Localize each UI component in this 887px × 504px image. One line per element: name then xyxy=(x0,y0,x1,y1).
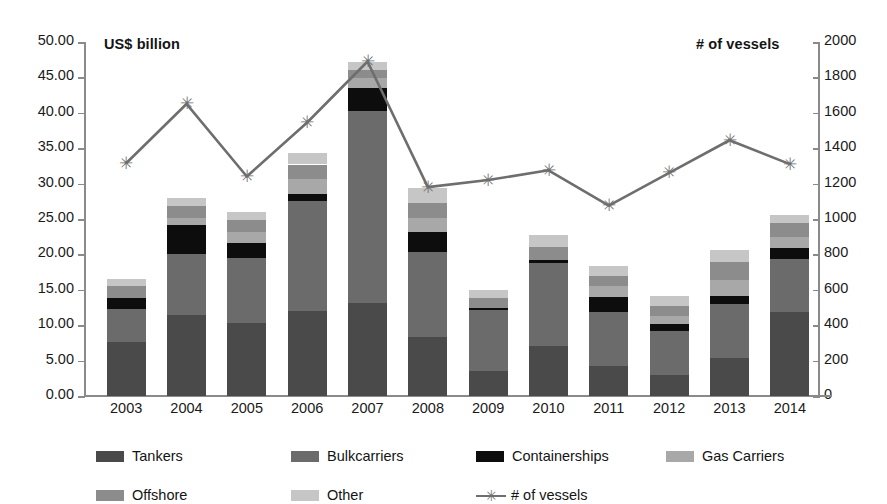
legend-swatch xyxy=(476,451,504,462)
legend-label: Bulkcarriers xyxy=(327,448,404,464)
left-tick-label: 30.00 xyxy=(12,174,74,190)
left-tick-label: 45.00 xyxy=(12,67,74,83)
vessels-marker: ✳ xyxy=(421,178,435,197)
right-tick-label: 2000 xyxy=(824,32,884,48)
vessels-line-series: ✳✳✳✳✳✳✳✳✳✳✳✳ xyxy=(96,42,820,396)
legend-item-tankers[interactable]: Tankers xyxy=(96,448,183,464)
left-tick-label: 15.00 xyxy=(12,280,74,296)
left-tick-label: 40.00 xyxy=(12,103,74,119)
legend-item-gas-carriers[interactable]: Gas Carriers xyxy=(666,448,784,464)
vessels-marker: ✳ xyxy=(662,163,676,182)
legend-label: Other xyxy=(327,487,363,503)
right-tick-label: 200 xyxy=(824,351,884,367)
x-label-2014: 2014 xyxy=(755,400,825,416)
legend-row-1: TankersBulkcarriersContainershipsGas Car… xyxy=(96,443,856,469)
legend-label: Containerships xyxy=(512,448,609,464)
right-tick-label: 1600 xyxy=(824,103,884,119)
right-tick-label: 800 xyxy=(824,244,884,260)
vessels-marker: ✳ xyxy=(783,155,797,174)
right-tick-label: 1800 xyxy=(824,67,884,83)
right-tick-label: 600 xyxy=(824,280,884,296)
legend-item-containerships[interactable]: Containerships xyxy=(476,448,609,464)
vessels-marker: ✳ xyxy=(300,113,314,132)
legend-swatch xyxy=(291,490,319,501)
legend-label: Tankers xyxy=(132,448,183,464)
legend-swatch xyxy=(666,451,694,462)
legend-item--of-vessels[interactable]: ✳# of vessels xyxy=(476,487,588,503)
legend-swatch xyxy=(291,451,319,462)
legend-item-bulkcarriers[interactable]: Bulkcarriers xyxy=(291,448,404,464)
plot-area: ✳✳✳✳✳✳✳✳✳✳✳✳ xyxy=(96,42,820,396)
legend-swatch xyxy=(96,451,124,462)
right-tick-label: 400 xyxy=(824,315,884,331)
legend-item-other[interactable]: Other xyxy=(291,487,363,503)
left-axis-line xyxy=(84,42,86,397)
left-tick-label: 25.00 xyxy=(12,209,74,225)
vessels-marker: ✳ xyxy=(602,196,616,215)
vessels-marker: ✳ xyxy=(361,52,375,71)
vessels-marker: ✳ xyxy=(119,154,133,173)
right-tick-label: 1200 xyxy=(824,174,884,190)
legend-label: Offshore xyxy=(132,487,187,503)
right-tick-label: 1000 xyxy=(824,209,884,225)
legend-row-2: OffshoreOther✳# of vessels xyxy=(96,469,856,495)
legend-label: Gas Carriers xyxy=(702,448,784,464)
legend-swatch xyxy=(96,490,124,501)
right-tick-label: 1400 xyxy=(824,138,884,154)
chart-legend: TankersBulkcarriersContainershipsGas Car… xyxy=(96,443,856,495)
left-tick-label: 5.00 xyxy=(12,351,74,367)
left-tick-label: 50.00 xyxy=(12,32,74,48)
left-tick-label: 0.00 xyxy=(12,386,74,402)
vessels-marker: ✳ xyxy=(481,171,495,190)
vessels-marker: ✳ xyxy=(542,161,556,180)
vessels-marker: ✳ xyxy=(723,131,737,150)
legend-label: # of vessels xyxy=(511,487,588,503)
right-tick-label: 0 xyxy=(824,386,884,402)
vessels-marker: ✳ xyxy=(180,94,194,113)
left-tick-label: 20.00 xyxy=(12,244,74,260)
legend-item-offshore[interactable]: Offshore xyxy=(96,487,187,503)
left-tick-label: 35.00 xyxy=(12,138,74,154)
vessels-marker: ✳ xyxy=(240,167,254,186)
left-tick-label: 10.00 xyxy=(12,315,74,331)
legend-line-marker: ✳ xyxy=(476,490,506,501)
